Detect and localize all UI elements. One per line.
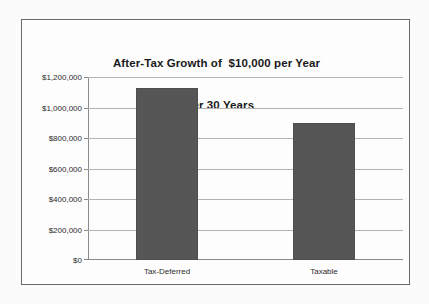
- y-axis-tick-mark: [84, 259, 88, 260]
- y-axis-tick-mark: [84, 77, 88, 78]
- y-axis-tick-label: $400,000: [49, 195, 82, 204]
- chart-frame: After-Tax Growth of $10,000 per Year ove…: [21, 19, 410, 285]
- y-axis-tick-mark: [84, 138, 88, 139]
- bar-taxable[interactable]: [293, 123, 355, 260]
- y-axis-tick-mark: [84, 230, 88, 231]
- y-axis-tick-label: $800,000: [49, 134, 82, 143]
- bar-tax-deferred[interactable]: [136, 88, 198, 260]
- y-axis-tick-mark: [84, 169, 88, 170]
- y-axis-tick-label: $1,000,000: [42, 104, 82, 113]
- category-label: Taxable: [310, 267, 338, 276]
- chart-title-line-1: After-Tax Growth of $10,000 per Year: [22, 56, 411, 70]
- plot-area: $0$200,000$400,000$600,000$800,000$1,000…: [88, 77, 403, 260]
- y-axis-tick-mark: [84, 199, 88, 200]
- category-label: Tax-Deferred: [144, 267, 190, 276]
- y-axis-tick-label: $0: [73, 256, 82, 265]
- y-axis-tick-label: $1,200,000: [42, 73, 82, 82]
- y-axis-tick-label: $600,000: [49, 165, 82, 174]
- y-axis-tick-label: $200,000: [49, 226, 82, 235]
- gridline: [88, 77, 403, 78]
- y-axis-tick-mark: [84, 108, 88, 109]
- chart-canvas: After-Tax Growth of $10,000 per Year ove…: [0, 0, 429, 304]
